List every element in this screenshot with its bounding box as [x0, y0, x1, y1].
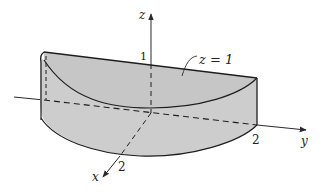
y-axis-label: y: [300, 134, 308, 148]
annotation-label: z = 1: [198, 52, 233, 67]
x-tick-label: 2: [118, 160, 126, 174]
y-axis-back-segment: [14, 97, 44, 100]
half-cylinder-diagram: z 1 z = 1 2 y 2 x: [0, 0, 322, 192]
x-axis-label: x: [92, 170, 99, 184]
z-axis-label: z: [138, 8, 146, 22]
y-tick-label: 2: [252, 133, 260, 147]
diagram-canvas: z 1 z = 1 2 y 2 x: [0, 0, 322, 192]
z-tick-label: 1: [140, 50, 147, 63]
y-axis-front-segment: [257, 125, 306, 130]
